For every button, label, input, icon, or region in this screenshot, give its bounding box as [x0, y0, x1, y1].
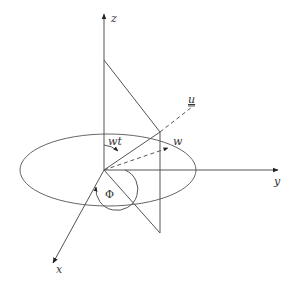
- wt-angle-label: wt: [108, 135, 122, 148]
- w-vector-label: w: [173, 135, 183, 148]
- x-axis: [53, 170, 104, 263]
- plane-edge-top: [104, 60, 160, 132]
- z-axis-label: z: [110, 12, 117, 25]
- y-axis-label: y: [273, 175, 281, 188]
- coordinate-diagram: z y x u w wt Φ: [0, 0, 293, 285]
- phi-angle-arc: [96, 170, 138, 210]
- x-axis-label: x: [56, 263, 63, 276]
- phi-angle-label: Φ: [105, 188, 114, 201]
- u-vector-label: u: [188, 93, 195, 106]
- w-vector: [104, 148, 168, 170]
- u-vector-dashed: [160, 107, 192, 132]
